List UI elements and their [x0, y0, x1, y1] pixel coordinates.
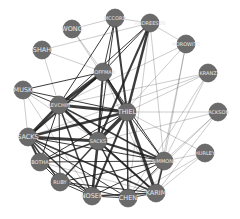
node-label: CHEN [119, 194, 138, 202]
node-wong[interactable]: WONG [61, 20, 82, 38]
network-graph: MCCORDANDREESENWONGHOROWITZSHAHKRANZHOFF… [0, 0, 240, 219]
edge-shah-andreessen [42, 23, 150, 50]
node-label: SACKS [90, 138, 107, 144]
node-label: THIEL [117, 108, 137, 116]
node-kranz[interactable]: KRANZ [199, 64, 217, 82]
node-hurley[interactable]: HURLEY [195, 144, 216, 162]
node-botha[interactable]: BOTHA [31, 153, 49, 171]
node-musk[interactable]: MUSK [14, 81, 33, 99]
edge-kranz-thiel [127, 73, 208, 112]
edge-jackson-sacks2 [98, 112, 218, 141]
node-label: SIMMONS [152, 158, 176, 164]
node-horowitz[interactable]: HOROWITZ [172, 35, 201, 53]
node-label: HOROWITZ [172, 41, 201, 47]
node-label: RUBY [53, 179, 67, 185]
node-label: MUSK [14, 86, 33, 94]
node-shah[interactable]: SHAH [33, 41, 51, 59]
node-label: KARIM [146, 189, 167, 197]
node-label: NOSEK [81, 192, 104, 200]
node-label: SHAH [33, 46, 51, 54]
node-ruby[interactable]: RUBY [51, 173, 69, 191]
node-mccord[interactable]: MCCORD [104, 9, 127, 27]
node-label: BOTHA [31, 159, 49, 165]
node-jackson[interactable]: JACKSON [206, 103, 230, 121]
node-label: JACKSON [206, 109, 230, 115]
node-label: HURLEY [195, 150, 216, 156]
node-label: LEVCHIN [48, 102, 70, 108]
node-sacks2[interactable]: SACKS [89, 132, 107, 150]
edge-andreessen-simmons [150, 23, 164, 161]
node-label: WONG [61, 25, 82, 33]
edge-levchin-ruby [59, 105, 60, 182]
node-label: SACKS [17, 133, 39, 141]
node-label: ANDREESEN [135, 20, 166, 26]
node-label: MCCORD [104, 15, 127, 21]
node-chen[interactable]: CHEN [119, 189, 138, 207]
node-label: HOFFMAN [91, 69, 116, 75]
node-label: KRANZ [199, 70, 217, 76]
edge-horowitz-karim [156, 44, 186, 193]
